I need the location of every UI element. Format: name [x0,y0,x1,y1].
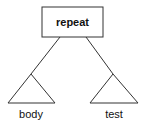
child-node-test: test [90,74,138,120]
edge-to-body [31,37,60,74]
body-label: body [19,108,43,120]
root-node: repeat [42,7,103,37]
test-label: test [105,108,123,120]
root-label: repeat [56,16,89,28]
syntax-tree-diagram: repeat body test [0,0,145,126]
test-subtree-triangle [90,74,138,103]
child-node-body: body [8,74,55,120]
body-subtree-triangle [8,74,55,103]
edge-to-test [86,37,113,74]
